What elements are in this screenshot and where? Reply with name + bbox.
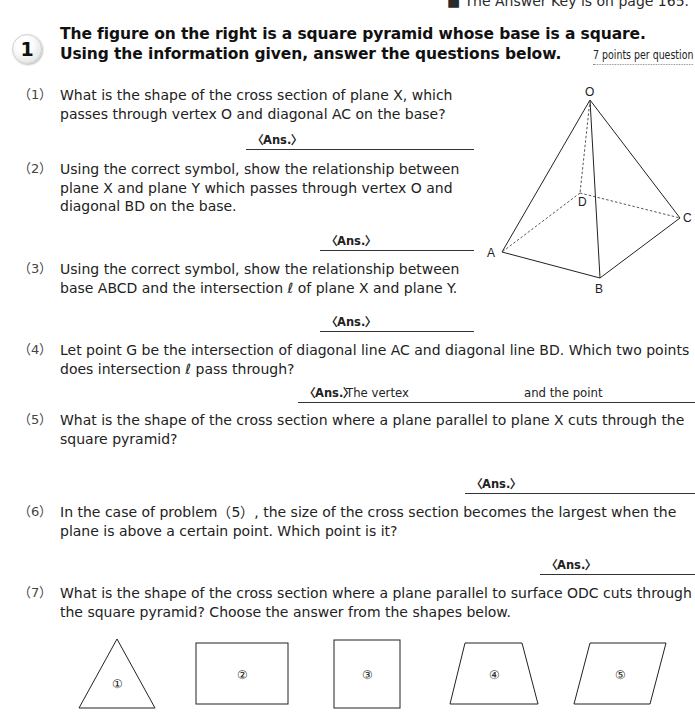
question-2: （2） Using the correct symbol, show the r… — [18, 160, 498, 216]
vertex-label-c: C — [683, 211, 692, 225]
answer-line-3[interactable]: 〈Ans.〉 — [320, 313, 474, 332]
question-number: （7） — [18, 584, 52, 603]
question-number: （6） — [18, 503, 52, 522]
vertex-label-b: B — [595, 282, 603, 296]
vertex-label-a: A — [487, 246, 495, 260]
answer-label: 〈Ans.〉 — [326, 313, 376, 329]
answer-line-2[interactable]: 〈Ans.〉 — [320, 232, 474, 251]
question-5: （5） What is the shape of the cross secti… — [18, 411, 695, 448]
answer-line-6[interactable]: 〈Ans.〉 — [540, 556, 695, 575]
question-number: （1） — [18, 86, 52, 105]
choice-label-4: ④ — [489, 668, 500, 682]
choice-label-2: ② — [237, 668, 248, 682]
question-text: What is the shape of the cross section w… — [60, 411, 695, 448]
question-number: （2） — [18, 160, 52, 179]
question-3: （3） Using the correct symbol, show the r… — [18, 260, 488, 297]
question-number: （3） — [18, 260, 52, 279]
answer-label: 〈Ans.〉 — [326, 232, 376, 248]
answer-line-4[interactable]: 〈Ans.〉 The vertex and the point — [298, 384, 695, 403]
question-text: What is the shape of the cross section o… — [60, 86, 488, 123]
question-1: （1） What is the shape of the cross secti… — [18, 86, 488, 123]
question-7: （7） What is the shape of the cross secti… — [18, 584, 695, 621]
choice-label-5: ⑤ — [615, 668, 626, 682]
question-number: （4） — [18, 341, 52, 360]
question-4: （4） Let point G be the intersection of d… — [18, 341, 695, 378]
question-text: What is the shape of the cross section w… — [60, 584, 695, 621]
answer-label: 〈Ans.〉 — [471, 475, 521, 491]
choice-label-1: ① — [112, 677, 123, 691]
answer-line-1[interactable]: 〈Ans.〉 — [246, 131, 474, 150]
answer-label: 〈Ans.〉 — [252, 131, 302, 147]
answer-label: 〈Ans.〉 — [546, 556, 596, 572]
question-6: （6） In the case of problem（5）, the size … — [18, 503, 695, 540]
choice-label-3: ③ — [362, 668, 373, 682]
answer-line-5[interactable]: 〈Ans.〉 — [465, 475, 695, 494]
vertex-label-o: O — [585, 85, 594, 99]
question-text: Using the correct symbol, show the relat… — [60, 260, 488, 297]
question-number: （5） — [18, 411, 52, 430]
answer-prompt-vertex: The vertex — [346, 385, 409, 400]
question-text: In the case of problem（5）, the size of t… — [60, 503, 695, 540]
vertex-label-d: D — [578, 195, 587, 209]
answer-prompt-point: and the point — [524, 385, 602, 400]
question-text: Let point G be the intersection of diago… — [60, 341, 695, 378]
question-text: Using the correct symbol, show the relat… — [60, 160, 498, 216]
choice-shape-triangle — [79, 639, 155, 708]
